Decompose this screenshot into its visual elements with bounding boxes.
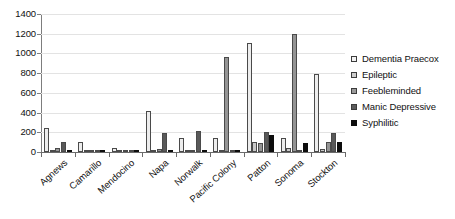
- legend-swatch-icon: [351, 56, 357, 62]
- legend-label: Manic Depressive: [362, 102, 436, 112]
- legend-item[interactable]: Dementia Praecox: [351, 51, 455, 66]
- chart-legend: Dementia PraecoxEpilepticFeeblemindedMan…: [351, 51, 455, 131]
- legend-swatch-icon: [351, 88, 357, 94]
- legend-label: Syphilitic: [362, 118, 399, 128]
- legend-item[interactable]: Manic Depressive: [351, 99, 455, 114]
- legend-label: Dementia Praecox: [362, 54, 439, 64]
- bar-chart: 1400120010008006004002000 AgnewsCamarill…: [0, 0, 455, 219]
- legend-swatch-icon: [351, 120, 357, 126]
- legend-swatch-icon: [351, 72, 357, 78]
- legend-label: Feebleminded: [362, 86, 421, 96]
- legend-item[interactable]: Feebleminded: [351, 83, 455, 98]
- legend-label: Epileptic: [362, 70, 397, 80]
- legend-swatch-icon: [351, 104, 357, 110]
- legend-item[interactable]: Epileptic: [351, 67, 455, 82]
- x-axis-category-label: Agnews: [0, 157, 69, 219]
- legend-item[interactable]: Syphilitic: [351, 115, 455, 130]
